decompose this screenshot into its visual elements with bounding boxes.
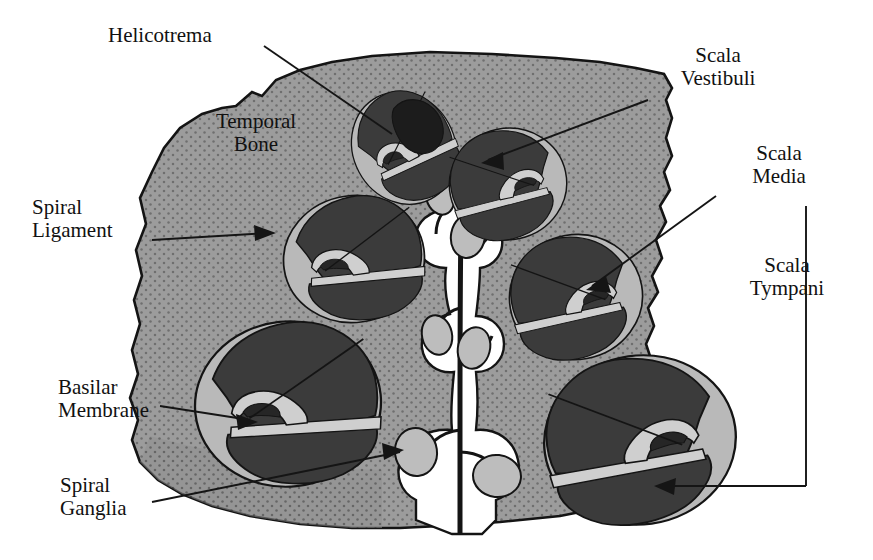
label-scala-media: Scala Media <box>724 142 834 188</box>
label-helicotrema: Helicotrema <box>108 24 212 47</box>
label-spiral-ganglia: Spiral Ganglia <box>60 474 126 520</box>
cochlea-diagram: Helicotrema Temporal Bone Spiral Ligamen… <box>0 0 873 560</box>
label-scala-tympani: Scala Tympani <box>722 254 852 300</box>
label-scala-vestibuli: Scala Vestibuli <box>648 44 788 90</box>
label-temporal-bone: Temporal Bone <box>186 110 326 156</box>
label-spiral-ligament: Spiral Ligament <box>32 196 112 242</box>
label-basilar-membrane: Basilar Membrane <box>58 376 149 422</box>
